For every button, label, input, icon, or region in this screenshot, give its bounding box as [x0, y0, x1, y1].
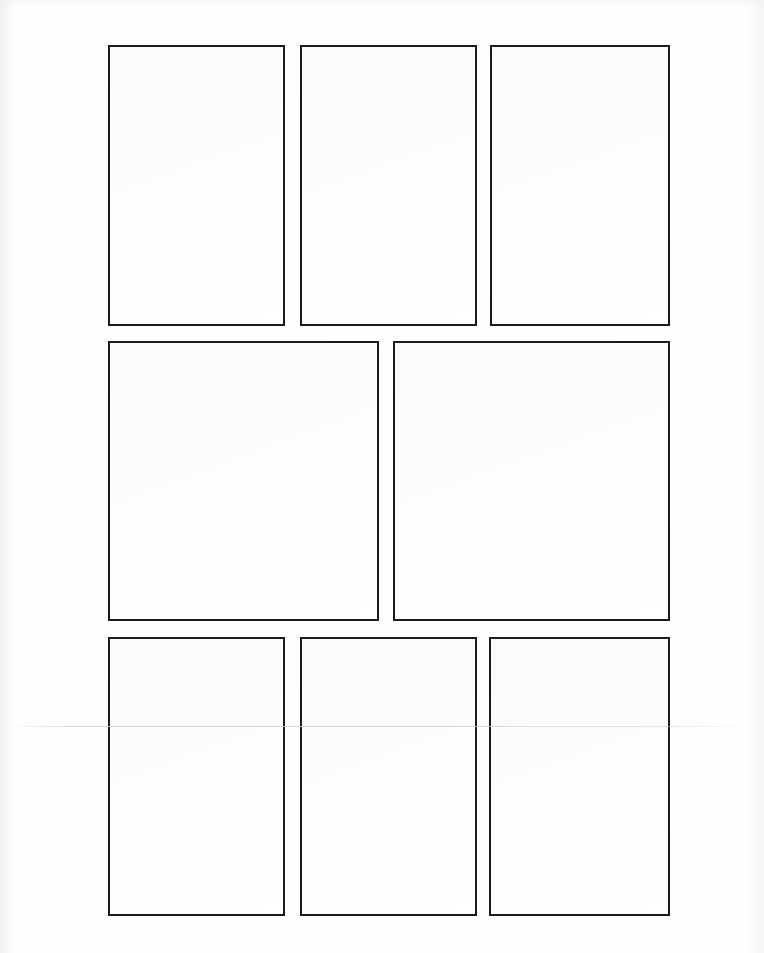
panel-4[interactable] — [108, 341, 379, 621]
comic-page-sheet — [0, 0, 764, 953]
panel-2[interactable] — [300, 45, 477, 326]
panel-8[interactable] — [489, 637, 670, 916]
panel-7[interactable] — [300, 637, 477, 916]
panel-6[interactable] — [108, 637, 285, 916]
panel-5[interactable] — [393, 341, 670, 621]
panel-3[interactable] — [490, 45, 670, 326]
panel-1[interactable] — [108, 45, 285, 326]
